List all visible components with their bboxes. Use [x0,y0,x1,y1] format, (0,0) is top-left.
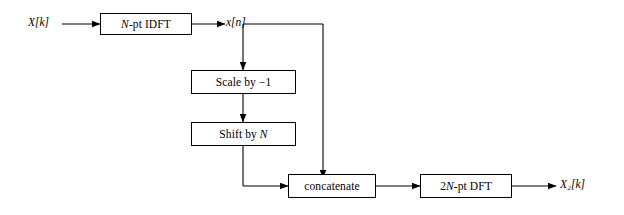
signal-label-output-text: X₂[k] [560,178,585,190]
signal-label-input-text: X[k] [28,16,49,28]
block-idft-label: N-pt IDFT [121,18,171,30]
diagram-canvas: X[k] N-pt IDFT x[n] Scale by −1 Shift by… [0,0,624,215]
block-dft[interactable]: 2N-pt DFT [420,174,512,198]
block-scale-by-minus-one[interactable]: Scale by −1 [191,70,296,94]
signal-label-output: X₂[k] [560,178,585,190]
block-dft-label: 2N-pt DFT [440,180,492,192]
signal-label-mid-text: x[n] [226,16,246,28]
block-concatenate[interactable]: concatenate [288,174,376,198]
block-concatenate-label: concatenate [304,180,359,192]
signal-label-input: X[k] [28,16,49,28]
block-shift-label: Shift by N [219,128,267,140]
signal-label-mid: x[n] [226,16,246,28]
block-scale-label: Scale by −1 [216,76,272,88]
block-shift-by-n[interactable]: Shift by N [191,122,296,146]
block-idft[interactable]: N-pt IDFT [100,13,192,35]
